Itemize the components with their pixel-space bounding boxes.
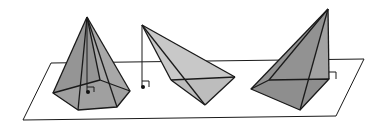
diagram-canvas — [0, 0, 381, 130]
right-angle-marker — [329, 72, 336, 79]
altitude-foot-point — [141, 85, 145, 89]
altitude-foot-point — [86, 90, 90, 94]
triangular-pyramid — [141, 25, 235, 105]
pyramids-diagram — [0, 0, 381, 130]
pentagonal-pyramid — [53, 17, 130, 110]
quadrilateral-pyramid — [251, 9, 336, 110]
